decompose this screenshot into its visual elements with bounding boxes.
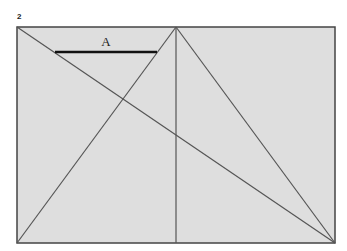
geometry-diagram: A: [0, 0, 347, 251]
segment-a-label: A: [101, 34, 111, 49]
